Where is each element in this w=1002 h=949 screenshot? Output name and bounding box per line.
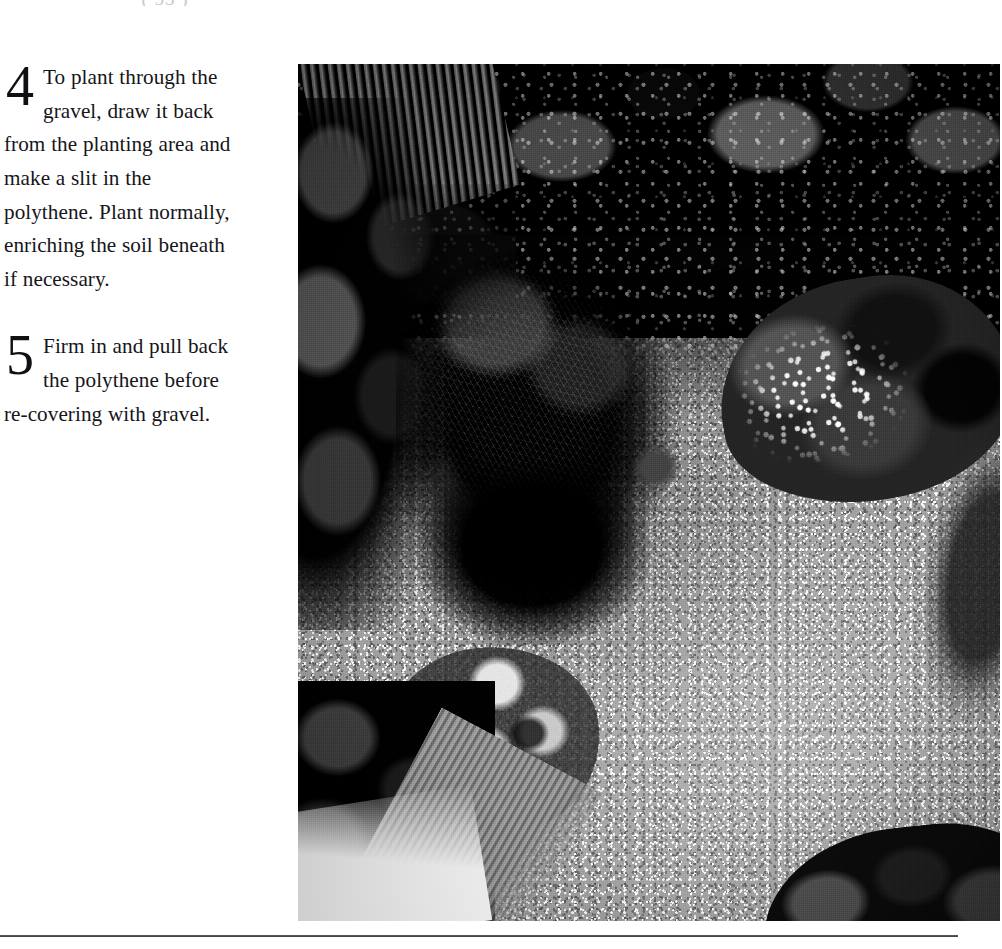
photo-canvas [298, 64, 1000, 921]
instruction-text-column: 4 To plant through the gravel, draw it b… [4, 40, 240, 452]
step-number-dropcap-5: 5 [4, 331, 43, 380]
fennel-base-shadow [417, 458, 656, 647]
running-head: ( 55 ) [0, 0, 330, 6]
garden-photograph [298, 64, 1000, 921]
instruction-step-4: 4 To plant through the gravel, draw it b… [4, 61, 240, 296]
instruction-step-5: 5 Firm in and pull back the polythene be… [4, 330, 240, 431]
page-bottom-rule [0, 935, 958, 937]
step-number-dropcap-4: 4 [4, 62, 43, 111]
